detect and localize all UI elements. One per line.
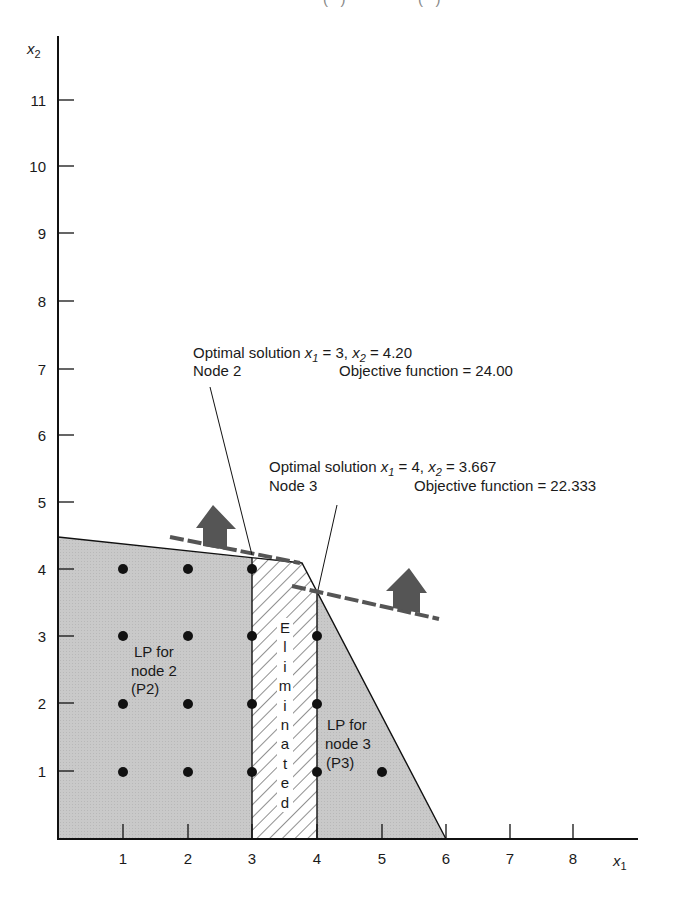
x-tick-label: 3 bbox=[242, 850, 262, 867]
note2-x2: x2 bbox=[352, 344, 366, 361]
node3-label: Node 3 bbox=[269, 477, 317, 494]
p2-label-line3: (P2) bbox=[131, 680, 159, 697]
y-axis-label-var: x bbox=[27, 40, 35, 57]
y-tick-label: 9 bbox=[16, 225, 46, 242]
p3-label-line2: node 3 bbox=[325, 735, 371, 752]
x-axis-label: x1 bbox=[613, 852, 627, 875]
x-axis-label-sub: 1 bbox=[621, 860, 627, 872]
eliminated-letter: t bbox=[277, 754, 293, 773]
y-axis-label: x2 bbox=[27, 40, 41, 63]
x-tick-label: 5 bbox=[372, 850, 392, 867]
node3-objective: Objective function = 22.333 bbox=[414, 477, 596, 494]
note3-x1: x1 bbox=[381, 458, 395, 475]
x-tick-label: 8 bbox=[563, 850, 583, 867]
y-tick-label: 8 bbox=[16, 293, 46, 310]
eliminated-letter: l bbox=[277, 637, 293, 656]
y-tick-label: 5 bbox=[16, 494, 46, 511]
y-tick-label: 1 bbox=[16, 763, 46, 780]
y-tick-label: 10 bbox=[16, 158, 46, 175]
y-tick-label: 6 bbox=[16, 427, 46, 444]
note3-x2-value: = 3.667 bbox=[442, 458, 497, 475]
p3-label-line3: (P3) bbox=[326, 754, 354, 771]
note3-prefix: Optimal solution bbox=[269, 458, 381, 475]
objective-direction-arrow-icon bbox=[196, 505, 236, 550]
x-tick-label: 7 bbox=[500, 850, 520, 867]
y-tick-label: 11 bbox=[16, 92, 46, 109]
node2-label: Node 2 bbox=[193, 362, 241, 379]
x-tick-label: 1 bbox=[113, 850, 133, 867]
x-tick-label: 2 bbox=[178, 850, 198, 867]
y-tick-label: 3 bbox=[16, 628, 46, 645]
note2-x1: x1 bbox=[305, 344, 319, 361]
objective-direction-arrow-icon bbox=[386, 568, 427, 613]
eliminated-letter: i bbox=[277, 657, 293, 676]
note2-prefix: Optimal solution bbox=[193, 344, 305, 361]
note3-x2: x2 bbox=[428, 458, 442, 475]
note3-x1-value: = 4, bbox=[394, 458, 428, 475]
y-tick-label: 7 bbox=[16, 361, 46, 378]
eliminated-letter: a bbox=[277, 734, 293, 753]
node2-objective: Objective function = 24.00 bbox=[339, 362, 513, 379]
note2-x2-value: = 4.20 bbox=[366, 344, 412, 361]
eliminated-letter: E bbox=[277, 618, 293, 637]
p2-label-line2: node 2 bbox=[131, 662, 177, 679]
eliminated-letter: i bbox=[277, 696, 293, 715]
y-tick-label: 4 bbox=[16, 561, 46, 578]
eliminated-letter: e bbox=[277, 773, 293, 792]
x-tick-label: 6 bbox=[436, 850, 456, 867]
x-tick-label: 4 bbox=[307, 850, 327, 867]
eliminated-label: E l i m i n a t e d bbox=[277, 618, 293, 812]
p3-label-line1: LP for bbox=[327, 716, 367, 733]
leader-line-node3 bbox=[318, 505, 337, 590]
y-axis-label-sub: 2 bbox=[35, 48, 41, 60]
eliminated-letter: m bbox=[277, 676, 293, 695]
eliminated-letter: d bbox=[277, 793, 293, 812]
x-axis-label-var: x bbox=[613, 852, 621, 869]
y-tick-label: 2 bbox=[16, 695, 46, 712]
p2-label-line1: LP for bbox=[134, 643, 174, 660]
note2-x1-value: = 3, bbox=[318, 344, 352, 361]
eliminated-letter: n bbox=[277, 715, 293, 734]
